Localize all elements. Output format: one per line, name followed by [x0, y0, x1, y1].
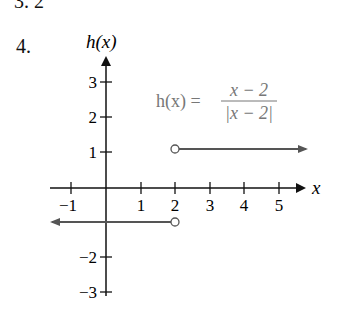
svg-text:5: 5	[275, 196, 284, 215]
svg-text:−3: −3	[79, 283, 97, 302]
y-axis-label: h(x)	[86, 31, 117, 53]
svg-text:−1: −1	[59, 196, 77, 215]
svg-text:4: 4	[240, 196, 249, 215]
svg-text:x − 2: x − 2	[229, 80, 268, 100]
svg-text:3: 3	[89, 73, 98, 92]
svg-text:2: 2	[89, 108, 98, 127]
svg-text:h(x) =: h(x) =	[156, 91, 201, 112]
x-tick-labels: −1 1 2 3 4 5	[59, 196, 283, 215]
svg-text:3: 3	[206, 196, 215, 215]
svg-text:|x − 2|: |x − 2|	[225, 103, 273, 123]
svg-text:2: 2	[171, 196, 180, 215]
svg-text:−2: −2	[79, 248, 97, 267]
formula-annotation: h(x) = x − 2 |x − 2|	[156, 80, 277, 123]
open-circle-left-endpoint	[171, 218, 179, 226]
svg-text:1: 1	[89, 143, 98, 162]
svg-text:1: 1	[137, 196, 146, 215]
y-axis-label-var: x	[101, 31, 111, 52]
open-circle-right-endpoint	[171, 145, 179, 153]
function-graph: x h(x) −1 1 2 3 4 5 3 2 1 −2 −3	[0, 0, 339, 321]
x-axis-label: x	[311, 177, 321, 198]
